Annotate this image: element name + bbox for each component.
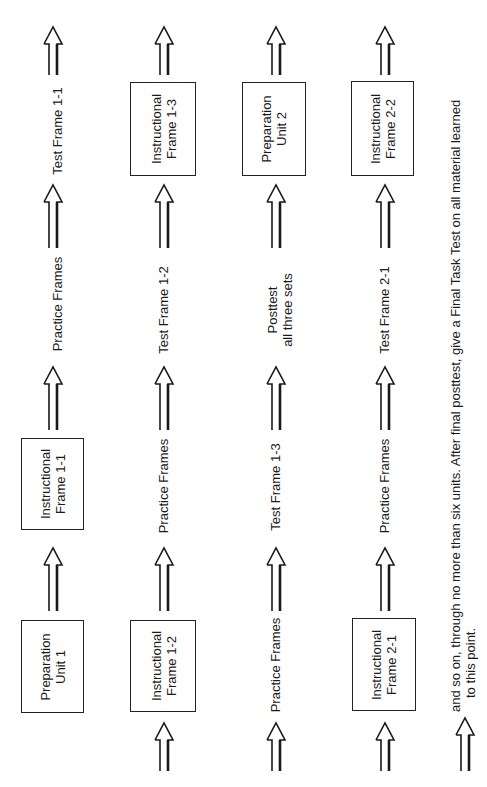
line-1: Preparation xyxy=(38,633,53,700)
line-1: Instructional xyxy=(369,630,384,700)
label-preparation-unit-2: Preparation Unit 2 xyxy=(259,83,289,176)
arrow-up-icon xyxy=(264,543,288,613)
label-instructional-frame-2-2: Instructional Frame 2-2 xyxy=(368,83,398,176)
line-2: Unit 2 xyxy=(274,112,289,146)
arrow-up-icon xyxy=(373,718,397,773)
label-test-frame-1-1: Test Frame 1-1 xyxy=(48,76,66,186)
arrow-up-icon xyxy=(373,543,397,613)
arrow-up-icon xyxy=(152,543,176,613)
line-1: Instructional xyxy=(149,631,164,701)
line-1: Instructional xyxy=(368,94,383,164)
arrow-up-icon xyxy=(264,22,288,77)
line-1: Instructional xyxy=(38,449,53,519)
label-test-frame-1-3: Test Frame 1-3 xyxy=(266,432,284,542)
arrow-up-icon xyxy=(41,543,65,613)
line-1: Preparation xyxy=(259,95,274,162)
arrow-up-icon xyxy=(373,180,397,250)
line-2: all three sets xyxy=(280,273,295,347)
arrow-up-icon xyxy=(264,718,288,773)
arrow-up-icon xyxy=(453,713,477,773)
label-test-frame-1-2: Test Frame 1-2 xyxy=(154,255,172,365)
label-practice-frames: Practice Frames xyxy=(375,431,393,541)
label-practice-frames: Practice Frames xyxy=(266,610,284,720)
line-2: Frame 1-2 xyxy=(164,636,179,696)
label-instructional-frame-1-3: Instructional Frame 1-3 xyxy=(149,83,179,176)
label-instructional-frame-2-1: Instructional Frame 2-1 xyxy=(369,619,399,712)
arrow-up-icon xyxy=(264,362,288,432)
label-instructional-frame-1-1: Instructional Frame 1-1 xyxy=(38,438,68,531)
arrow-up-icon xyxy=(41,180,65,250)
arrow-up-icon xyxy=(373,22,397,77)
label-preparation-unit-1: Preparation Unit 1 xyxy=(38,621,68,714)
arrow-up-icon xyxy=(152,22,176,77)
line-2: Frame 1-3 xyxy=(164,99,179,159)
label-instructional-frame-1-2: Instructional Frame 1-2 xyxy=(149,620,179,713)
line-1: Instructional xyxy=(149,94,164,164)
label-practice-frames: Practice Frames xyxy=(48,249,66,359)
line-2: Unit 1 xyxy=(53,650,68,684)
label-posttest-all-three-sets: Posttest all three sets xyxy=(264,260,296,360)
arrow-up-icon xyxy=(41,362,65,432)
arrow-up-icon xyxy=(152,180,176,250)
arrow-up-icon xyxy=(264,180,288,250)
line-2: Frame 1-1 xyxy=(53,454,68,514)
line-2: Frame 2-2 xyxy=(383,99,398,159)
arrow-up-icon xyxy=(41,22,65,77)
label-practice-frames: Practice Frames xyxy=(154,431,172,541)
arrow-up-icon xyxy=(373,362,397,432)
note-line-2: to this point. xyxy=(463,72,478,712)
line-2: Frame 2-1 xyxy=(384,635,399,695)
note-line-1: and so on, through no more than six unit… xyxy=(448,72,463,712)
line-1: Posttest xyxy=(265,287,280,334)
continuation-note: and so on, through no more than six unit… xyxy=(448,72,480,712)
label-test-frame-2-1: Test Frame 2-1 xyxy=(375,255,393,365)
arrow-up-icon xyxy=(152,362,176,432)
arrow-up-icon xyxy=(152,718,176,773)
